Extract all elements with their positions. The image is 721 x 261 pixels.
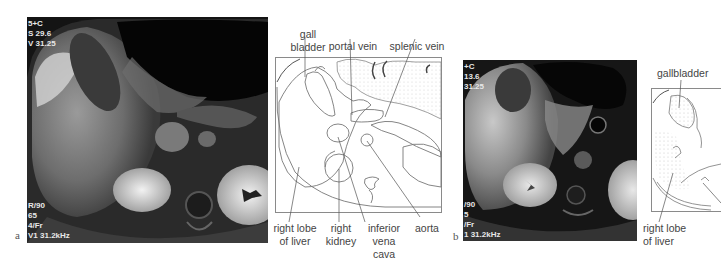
mri-text-line: 13.6	[464, 72, 480, 81]
label-line: kidney	[323, 235, 359, 248]
mri-text-line: 1 31.2kHz	[464, 230, 500, 239]
panel-letter-b: b	[453, 230, 459, 242]
label-splenic-vein: splenic vein	[386, 40, 448, 53]
label-line: right lobe	[643, 222, 703, 235]
label-line: right lobe	[268, 222, 322, 235]
mri-text-line: V 31.25	[28, 39, 56, 48]
anatomy-diagram-b	[651, 88, 721, 212]
label-right-lobe-of-liver-b: right lobe of liver	[643, 222, 703, 248]
mri-text-line: 65	[28, 211, 37, 220]
mri-text-line: 4/Fr	[28, 221, 43, 230]
mri-overlay-top-left-a: 5+C S 29.6 V 31.25	[28, 19, 56, 49]
mri-text-line: R/90	[28, 201, 45, 210]
label-aorta: aorta	[409, 222, 445, 235]
label-right-lobe-of-liver-a: right lobe of liver	[268, 222, 322, 248]
mri-overlay-top-left-b: +C 13.6 31.25	[464, 62, 484, 92]
anatomy-diagram-a	[275, 57, 442, 213]
mri-text-line: 31.25	[464, 82, 484, 91]
label-line: of liver	[643, 235, 703, 248]
mri-text-line: /90	[464, 200, 475, 209]
mri-overlay-bottom-left-b: /90 5 /Fr 1 31.2kHz	[464, 200, 500, 240]
label-right-kidney: right kidney	[323, 222, 359, 248]
mri-text-line: /Fr	[464, 220, 474, 229]
panel-letter-a: a	[15, 229, 20, 241]
label-inferior-vena-cava: inferior vena cava	[361, 222, 407, 261]
label-line: inferior	[361, 222, 407, 235]
label-line: of liver	[268, 235, 322, 248]
label-line: right	[323, 222, 359, 235]
label-line: vena cava	[361, 235, 407, 261]
label-gall-bladder: gall bladder	[290, 28, 326, 54]
mri-text-line: V1 31.2kHz	[28, 231, 70, 240]
mri-image-b: +C 13.6 31.25 /90 5 /Fr 1 31.2kHz	[463, 60, 637, 241]
mri-overlay-bottom-left-a: R/90 65 4/Fr V1 31.2kHz	[28, 201, 70, 241]
label-line: gall	[290, 28, 326, 41]
mri-text-line: 5	[464, 210, 468, 219]
mri-text-line: +C	[464, 62, 474, 71]
label-gallbladder-b: gallbladder	[657, 67, 717, 80]
mri-text-line: 5+C	[28, 19, 43, 28]
label-line: bladder	[290, 41, 326, 54]
label-portal-vein: portal vein	[322, 40, 384, 53]
mri-image-a: 5+C S 29.6 V 31.25 R/90 65 4/Fr V1 31.2k…	[27, 17, 268, 243]
mri-text-line: S 29.6	[28, 29, 51, 38]
